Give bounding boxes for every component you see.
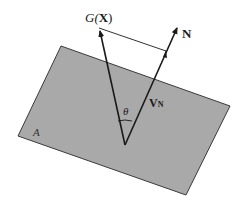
normal-label: N [182,27,191,40]
connector-line [99,28,166,51]
diagram-canvas: G(X) N VN θ A [0,0,244,209]
projection-label-main: V [149,96,158,110]
gradient-label-bold: X [99,10,108,25]
projection-label: VN [149,97,163,109]
projection-label-subscript: N [158,100,164,109]
plane-label: A [33,127,40,138]
gradient-label-main: G( [85,10,99,25]
diagram-svg [0,0,244,209]
angle-label: θ [123,106,128,117]
gradient-label: G(X) [85,11,112,24]
plane-a [18,46,230,195]
gradient-label-close: ) [108,10,112,25]
